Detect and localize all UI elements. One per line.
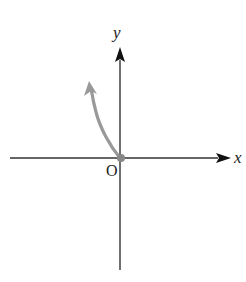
coordinate-diagram: y x O (0, 0, 246, 282)
y-axis-label: y (113, 24, 121, 41)
y-axis-arrow-icon (115, 47, 125, 62)
origin-point-dot (117, 154, 125, 162)
function-curve (91, 88, 120, 158)
origin-label: O (106, 163, 118, 179)
graph-canvas (0, 0, 246, 282)
x-axis-label: x (234, 149, 242, 166)
x-axis-arrow-icon (216, 153, 231, 163)
